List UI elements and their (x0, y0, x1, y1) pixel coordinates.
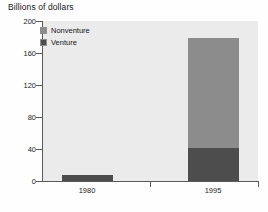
y-tick-label-200: 200 (10, 17, 36, 26)
y-tick-label-80: 80 (10, 113, 36, 122)
chart-figure: Billions of dollars 200 160 120 80 40 0 … (0, 0, 268, 212)
chart-legend: Nonventure Venture (40, 25, 90, 49)
y-tick-mark (36, 53, 42, 54)
y-tick-mark (36, 21, 42, 22)
legend-swatch-venture (40, 39, 47, 46)
x-tick-label-1980: 1980 (57, 186, 117, 195)
y-tick-mark (36, 117, 42, 118)
x-tick-label-1995: 1995 (183, 186, 243, 195)
chart-title: Billions of dollars (8, 2, 74, 12)
bar-1995-nonventure (188, 38, 239, 148)
legend-label-venture: Venture (51, 38, 77, 47)
legend-item-venture: Venture (40, 37, 90, 48)
bar-1995-venture (188, 148, 239, 181)
y-tick-mark (36, 85, 42, 86)
bar-1980-venture (62, 175, 113, 181)
legend-item-nonventure: Nonventure (40, 25, 90, 36)
x-tick-mark (150, 182, 151, 187)
y-tick-label-120: 120 (10, 81, 36, 90)
y-tick-label-40: 40 (10, 145, 36, 154)
legend-label-nonventure: Nonventure (51, 26, 90, 35)
y-tick-label-0: 0 (10, 177, 36, 186)
legend-swatch-nonventure (40, 27, 47, 34)
y-tick-mark (36, 149, 42, 150)
x-tick-mark (258, 182, 259, 187)
y-tick-label-160: 160 (10, 49, 36, 58)
y-tick-mark (36, 181, 42, 182)
